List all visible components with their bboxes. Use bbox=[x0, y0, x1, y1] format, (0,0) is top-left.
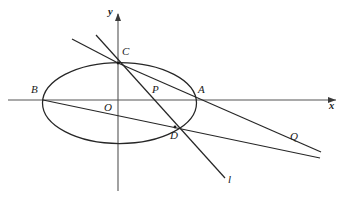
point-label-q: Q bbox=[290, 131, 298, 142]
geometry-canvas bbox=[0, 0, 346, 203]
line-label-l: l bbox=[228, 174, 231, 185]
point-label-d: D bbox=[170, 130, 178, 141]
origin-label: O bbox=[104, 102, 112, 113]
point-marker-d bbox=[174, 126, 177, 129]
y-axis-arrowhead bbox=[115, 13, 121, 21]
x-axis-label: x bbox=[329, 101, 334, 112]
point-label-b: B bbox=[31, 84, 38, 95]
y-axis bbox=[115, 13, 121, 191]
point-label-p: P bbox=[152, 84, 159, 95]
geometry-figure: y x O A B C D P Q l bbox=[0, 0, 346, 203]
point-label-a: A bbox=[198, 84, 205, 95]
point-label-c: C bbox=[122, 46, 129, 57]
point-marker-c bbox=[117, 62, 120, 65]
y-axis-label: y bbox=[108, 7, 113, 18]
x-axis bbox=[8, 97, 336, 103]
line-l bbox=[96, 35, 225, 178]
